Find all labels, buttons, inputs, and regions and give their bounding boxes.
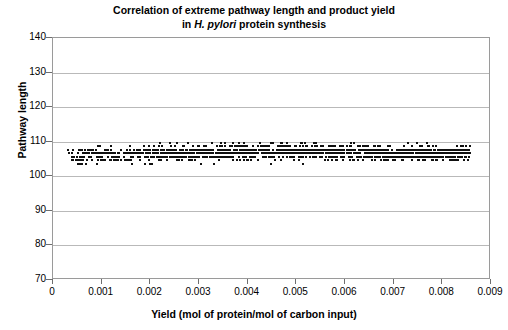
x-tick-1	[101, 279, 102, 284]
x-axis-title: Yield (mol of protein/mol of carbon inpu…	[0, 308, 508, 320]
x-tick-5	[295, 279, 296, 284]
y-tick-140	[46, 37, 52, 38]
x-tick-label-3: 0.003	[175, 287, 221, 297]
y-tick-label-130: 130	[6, 67, 46, 77]
y-axis-title: Pathway length	[16, 30, 28, 210]
x-tick-3	[198, 279, 199, 284]
y-tick-label-140: 140	[6, 32, 46, 42]
chart-title-line1: Correlation of extreme pathway length an…	[113, 4, 395, 16]
chart-title-line2-prefix: in	[182, 18, 194, 30]
x-tick-label-8: 0.008	[418, 287, 464, 297]
x-tick-label-6: 0.006	[321, 287, 367, 297]
x-tick-4	[247, 279, 248, 284]
x-tick-0	[52, 279, 53, 284]
x-tick-label-9: 0.009	[467, 287, 508, 297]
y-tick-110	[46, 141, 52, 142]
data-points	[53, 38, 489, 278]
y-tick-130	[46, 72, 52, 73]
y-tick-label-100: 100	[6, 170, 46, 180]
y-tick-label-80: 80	[6, 239, 46, 249]
x-tick-6	[344, 279, 345, 284]
chart-title: Correlation of extreme pathway length an…	[0, 3, 508, 31]
x-tick-7	[393, 279, 394, 284]
x-tick-9	[490, 279, 491, 284]
y-tick-label-120: 120	[6, 101, 46, 111]
y-tick-label-110: 110	[6, 136, 46, 146]
y-tick-label-90: 90	[6, 205, 46, 215]
x-tick-label-2: 0.002	[126, 287, 172, 297]
y-tick-120	[46, 106, 52, 107]
y-tick-label-70: 70	[6, 274, 46, 284]
x-tick-label-5: 0.005	[272, 287, 318, 297]
x-tick-label-7: 0.007	[370, 287, 416, 297]
y-tick-100	[46, 175, 52, 176]
chart-title-line2-suffix: protein synthesis	[236, 18, 326, 30]
scatter-chart: Correlation of extreme pathway length an…	[0, 0, 508, 330]
x-tick-8	[441, 279, 442, 284]
chart-title-species: H. pylori	[194, 18, 236, 30]
y-tick-80	[46, 244, 52, 245]
x-tick-label-1: 0.001	[78, 287, 124, 297]
y-tick-90	[46, 210, 52, 211]
plot-area	[52, 37, 490, 279]
x-tick-label-0: 0	[29, 287, 75, 297]
x-tick-2	[149, 279, 150, 284]
x-tick-label-4: 0.004	[224, 287, 270, 297]
